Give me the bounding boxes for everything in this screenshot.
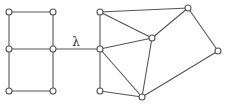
graph-edge (100, 38, 152, 49)
graph-node-r6 (215, 48, 221, 54)
graph-edge (100, 8, 188, 12)
graph-node-r2 (97, 46, 103, 52)
graph-node-r1 (97, 9, 103, 15)
graph-node-l1 (6, 9, 12, 15)
graph-node-l2 (50, 9, 56, 15)
graph-diagram: λ (0, 0, 225, 109)
graph-node-l4 (50, 46, 56, 52)
bridge-label-lambda: λ (72, 35, 80, 49)
graph-node-l3 (6, 46, 12, 52)
graph-node-r4 (149, 35, 155, 41)
graph-node-l5 (6, 88, 12, 94)
graph-edge (142, 51, 218, 97)
graph-edges (9, 8, 218, 97)
graph-edge (188, 8, 218, 51)
graph-edge (152, 8, 188, 38)
graph-node-r3 (97, 88, 103, 94)
graph-node-r5 (185, 5, 191, 11)
graph-node-r7 (139, 94, 145, 100)
graph-edge (100, 49, 142, 97)
graph-node-l6 (50, 88, 56, 94)
graph-edge (100, 91, 142, 97)
graph-edge (142, 38, 152, 97)
graph-edge (100, 12, 152, 38)
